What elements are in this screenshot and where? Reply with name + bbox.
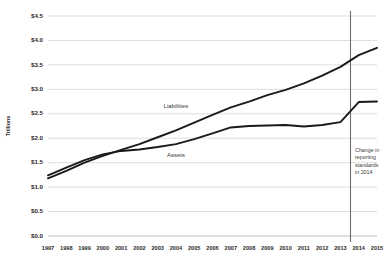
- x-axis-tick-label: 2002: [133, 245, 145, 251]
- x-axis-tick-label: 2010: [279, 245, 291, 251]
- x-axis-tick-label: 1998: [60, 245, 72, 251]
- y-axis-tick-label: $0.5: [31, 207, 44, 214]
- x-axis-tick-label: 2005: [188, 245, 200, 251]
- x-axis-tick-label: 2009: [261, 245, 273, 251]
- x-axis-tick-label: 2013: [334, 245, 346, 251]
- y-axis-tick-label: $2.5: [31, 109, 44, 116]
- annotation-group: Change inreportingstandardsin 2014: [350, 11, 379, 242]
- y-axis-tick-label: $1.0: [31, 183, 44, 190]
- x-axis-tick-label: 1997: [42, 245, 54, 251]
- x-axis-tick-label: 2008: [243, 245, 255, 251]
- series-line-liabilities: [48, 48, 377, 179]
- y-axis-tick-label: $4.0: [31, 36, 44, 43]
- x-axis-tick-label: 2004: [170, 245, 183, 251]
- gridlines-group: [48, 16, 377, 236]
- x-axis-tick-label: 2014: [352, 245, 365, 251]
- y-axis-tick-label: $0.0: [31, 232, 44, 239]
- x-axis-tick-label: 2011: [298, 245, 310, 251]
- x-axis-tick-label: 2001: [115, 245, 127, 251]
- annotation-text-line: standards: [355, 162, 379, 168]
- x-axis-tick-label: 2015: [371, 245, 383, 251]
- x-axis-tick-label: 2006: [206, 245, 218, 251]
- y-axis-tick-label: $4.5: [31, 12, 44, 19]
- y-axis-title: Trillions: [5, 116, 11, 137]
- y-axis-tick-label: $3.5: [31, 61, 44, 68]
- y-axis-title-group: Trillions: [5, 116, 11, 137]
- annotation-text-line: in 2014: [355, 169, 372, 175]
- chart-container: $0.0$0.5$1.0$1.5$2.0$2.5$3.0$3.5$4.0$4.5…: [0, 0, 390, 268]
- y-axis-tick-label: $1.5: [31, 158, 44, 165]
- x-axis-tick-label: 1999: [78, 245, 90, 251]
- x-axis-tick-labels: 1997199819992000200120022003200420052006…: [42, 245, 383, 251]
- y-axis-tick-label: $2.0: [31, 134, 44, 141]
- x-axis-tick-label: 2000: [97, 245, 109, 251]
- series-label-liabilities: Liabilities: [164, 103, 189, 109]
- line-chart: $0.0$0.5$1.0$1.5$2.0$2.5$3.0$3.5$4.0$4.5…: [0, 0, 390, 268]
- x-axis-tick-label: 2003: [151, 245, 163, 251]
- annotation-text-line: reporting: [355, 154, 376, 160]
- series-group: [48, 48, 377, 179]
- x-axis-tick-label: 2012: [316, 245, 328, 251]
- x-axis-tick-label: 2007: [225, 245, 237, 251]
- y-axis-tick-labels: $0.0$0.5$1.0$1.5$2.0$2.5$3.0$3.5$4.0$4.5: [31, 12, 44, 239]
- series-label-assets: Assets: [167, 152, 185, 158]
- annotation-text-line: Change in: [355, 147, 379, 153]
- y-axis-tick-label: $3.0: [31, 85, 44, 92]
